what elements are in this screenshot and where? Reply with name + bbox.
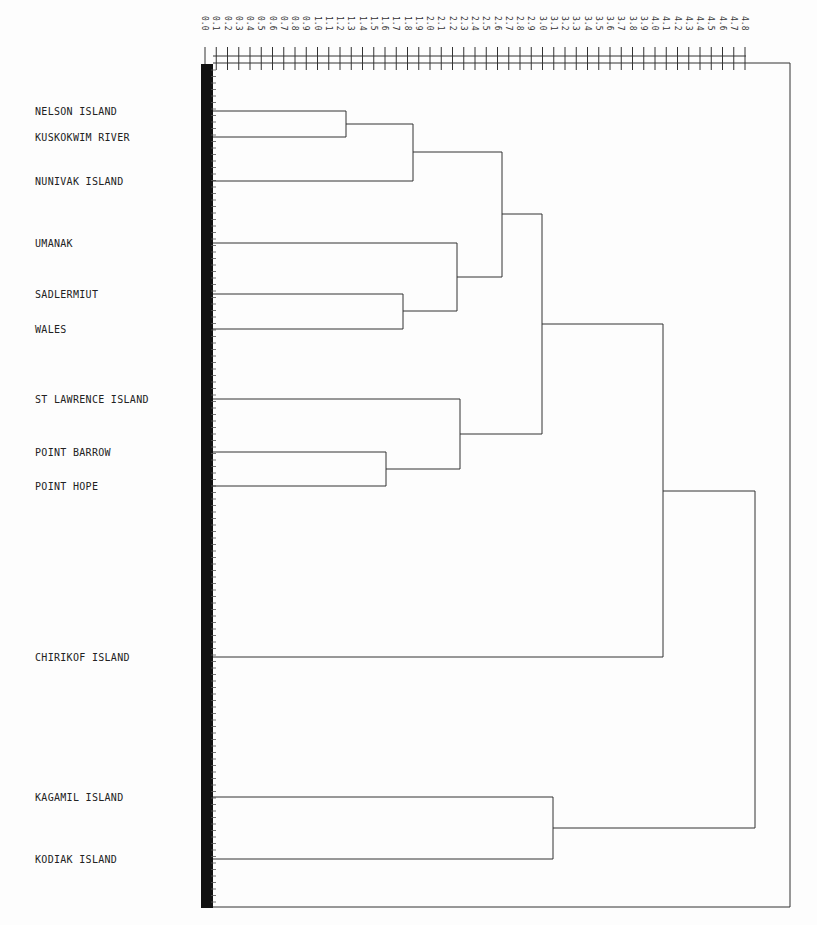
link-northern-chirikof [213, 324, 663, 657]
link-nelson-kuskokwim [213, 111, 346, 137]
x-axis-tick-label: 4.8 [740, 16, 749, 31]
x-axis-tick-label: 1.5 [369, 16, 378, 31]
x-axis-tick-label: 2.8 [515, 16, 524, 31]
x-axis-tick-label: 3.7 [616, 16, 625, 31]
link-nk-nunivak [213, 124, 413, 181]
link-stlawrence-bh [213, 399, 460, 469]
x-axis-tick-label: 3.9 [639, 16, 648, 31]
x-axis-tick-label: 3.3 [571, 16, 580, 31]
x-axis-tick-label: 1.9 [414, 16, 423, 31]
link-barrow-hope [213, 452, 386, 486]
leaf-label-nelson-island: NELSON ISLAND [35, 106, 117, 117]
x-axis-tick-label: 4.1 [661, 16, 670, 31]
x-axis-tick-label: 2.3 [459, 16, 468, 31]
x-axis-tick-label: 0.0 [200, 16, 209, 31]
leaf-labels: NELSON ISLAND KUSKOKWIM RIVER NUNIVAK IS… [35, 106, 149, 865]
x-axis-tick-label: 0.7 [279, 16, 288, 31]
dendrogram-chart: 0.00.10.20.30.40.50.60.70.80.91.01.11.21… [0, 0, 817, 925]
leaf-label-wales: WALES [35, 324, 67, 335]
x-axis-tick-label: 2.7 [504, 16, 513, 31]
x-axis-tick-label: 4.6 [718, 16, 727, 31]
x-axis-tick-label: 3.8 [628, 16, 637, 31]
x-axis-tick-label: 1.0 [313, 16, 322, 31]
x-axis-ticks [205, 47, 745, 70]
leaf-label-umanak: UMANAK [35, 238, 73, 249]
x-axis-tick-label: 2.6 [493, 16, 502, 31]
x-axis-tick-label: 1.8 [403, 16, 412, 31]
link-northern [460, 214, 542, 434]
x-axis-tick-label: 3.0 [538, 16, 547, 31]
x-axis-tick-label: 4.2 [673, 16, 682, 31]
x-axis-tick-label: 1.4 [358, 16, 367, 31]
leaf-label-chirikof-island: CHIRIKOF ISLAND [35, 652, 130, 663]
x-axis-tick-label: 1.7 [391, 16, 400, 31]
x-axis-tick-label: 4.0 [650, 16, 659, 31]
link-kagamil-kodiak [213, 797, 553, 859]
x-axis-tick-label: 1.2 [335, 16, 344, 31]
leaf-label-point-hope: POINT HOPE [35, 481, 98, 492]
x-axis-tick-label: 2.1 [436, 16, 445, 31]
link-sadlermiut-wales [213, 294, 403, 329]
x-axis-tick-labels: 0.00.10.20.30.40.50.60.70.80.91.01.11.21… [200, 16, 749, 31]
leaf-label-kodiak-island: KODIAK ISLAND [35, 854, 117, 865]
x-axis-tick-label: 2.4 [470, 16, 479, 31]
leaf-label-sadlermiut: SADLERMIUT [35, 289, 98, 300]
leaf-label-point-barrow: POINT BARROW [35, 447, 112, 458]
leaf-label-kuskokwim-river: KUSKOKWIM RIVER [35, 132, 130, 143]
x-axis-tick-label: 3.2 [560, 16, 569, 31]
x-axis-tick-label: 1.1 [324, 16, 333, 31]
x-axis-tick-label: 0.5 [256, 16, 265, 31]
x-axis-tick-label: 2.0 [425, 16, 434, 31]
x-axis-tick-label: 2.2 [448, 16, 457, 31]
leaf-label-nunivak-island: NUNIVAK ISLAND [35, 176, 124, 187]
x-axis-tick-label: 2.5 [481, 16, 490, 31]
leaf-label-kagamil-island: KAGAMIL ISLAND [35, 792, 124, 803]
leaf-label-st-lawrence-island: ST LAWRENCE ISLAND [35, 394, 149, 405]
x-axis-tick-label: 3.5 [594, 16, 603, 31]
x-axis-tick-label: 0.4 [245, 16, 254, 31]
x-axis-tick-label: 1.6 [380, 16, 389, 31]
x-axis-tick-label: 2.9 [526, 16, 535, 31]
x-axis-tick-label: 0.6 [268, 16, 277, 31]
x-axis-tick-label: 3.6 [605, 16, 614, 31]
dendrogram-links [213, 111, 755, 859]
x-axis-tick-label: 4.5 [706, 16, 715, 31]
x-axis-tick-label: 3.1 [549, 16, 558, 31]
x-axis-tick-label: 0.8 [290, 16, 299, 31]
link-umanak-sw [213, 243, 457, 311]
x-axis-tick-label: 1.3 [346, 16, 355, 31]
x-axis-tick-label: 0.3 [234, 16, 243, 31]
x-axis-tick-label: 0.1 [211, 16, 220, 31]
x-axis-tick-label: 3.4 [583, 16, 592, 31]
x-axis-tick-label: 0.9 [301, 16, 310, 31]
x-axis-tick-label: 4.3 [684, 16, 693, 31]
x-axis-tick-label: 0.2 [223, 16, 232, 31]
link-root [553, 491, 755, 828]
x-axis-tick-label: 4.4 [695, 16, 704, 31]
x-axis-tick-label: 4.7 [729, 16, 738, 31]
